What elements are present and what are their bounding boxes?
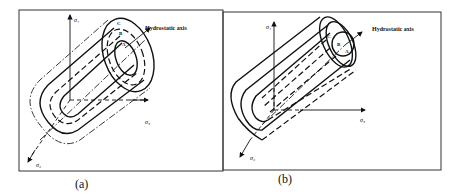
panel-a: C B A Hydrostatic axis σ₁ σ₃ σ₂ (a) bbox=[19, 10, 223, 191]
outer-surface bbox=[30, 20, 150, 144]
sigma1-label: σ₁ bbox=[74, 17, 79, 23]
sigma2-label: σ₂ bbox=[36, 162, 41, 168]
point-c: C bbox=[327, 34, 331, 39]
sigma2-label: σ₂ bbox=[250, 155, 255, 161]
point-c: C bbox=[117, 21, 121, 26]
sigma1-label: σ₁ bbox=[266, 24, 271, 30]
hydrostatic-axis-label: Hydrostatic axis bbox=[145, 25, 187, 31]
outer-cylinder-hidden bbox=[262, 70, 356, 140]
panel-b: C B A Hydrostatic axis σ₁ σ₃ σ₂ (b) bbox=[223, 12, 441, 186]
caption-a: (a) bbox=[75, 177, 88, 191]
sigma2-axis-arrow bbox=[240, 140, 250, 157]
point-a: A bbox=[122, 42, 126, 47]
point-b: B bbox=[337, 42, 341, 47]
figure: C B A Hydrostatic axis σ₁ σ₃ σ₂ (a) bbox=[0, 0, 459, 195]
sigma2-axis-arrow bbox=[28, 150, 35, 162]
sigma3-label: σ₃ bbox=[360, 117, 365, 123]
inner-surface-dashed bbox=[50, 36, 138, 124]
hydrostatic-axis-label: Hydrostatic axis bbox=[372, 26, 414, 32]
point-b: B bbox=[119, 31, 123, 36]
point-a: A bbox=[345, 49, 349, 54]
sigma3-label: σ₃ bbox=[145, 119, 150, 125]
panel-b-frame bbox=[223, 12, 441, 170]
caption-b: (b) bbox=[278, 172, 292, 186]
inner-surface bbox=[60, 43, 134, 117]
